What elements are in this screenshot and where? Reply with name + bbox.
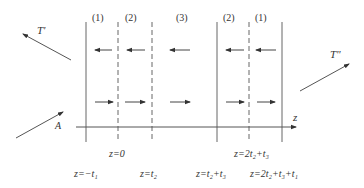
boundary-label-z-t2-t3: z=t₂+t₃	[195, 168, 226, 179]
transmitted-wave-label: T"	[330, 48, 341, 60]
region-label-2-left: (2)	[125, 12, 137, 24]
boundary-label-z-2t2-t3-t1: z=2t₂+t₃+t₁	[249, 168, 298, 179]
boundary-label-z-t2: z=t₂	[139, 168, 157, 179]
region-label-3: (3)	[176, 12, 188, 24]
reflected-wave-label: T'	[37, 24, 46, 36]
transmitted-wave-arrow-icon	[300, 64, 349, 91]
layered-slab-diagram: z (1) (2) (3) (2) (1) T' A T" z=0 z=−t₁ …	[0, 0, 364, 188]
boundary-label-z-neg-t1: z=−t₁	[73, 168, 98, 179]
region-label-1-left: (1)	[92, 12, 104, 24]
reflected-wave-arrow-icon	[23, 34, 71, 60]
z-axis-label: z	[292, 111, 298, 123]
region-label-2-right: (2)	[223, 12, 235, 24]
boundary-label-z0: z=0	[108, 148, 125, 159]
boundary-label-z-2t2-t3: z=2t₂+t₃	[233, 148, 269, 159]
incident-wave-label: A	[54, 120, 62, 131]
region-label-1-right: (1)	[255, 12, 267, 24]
